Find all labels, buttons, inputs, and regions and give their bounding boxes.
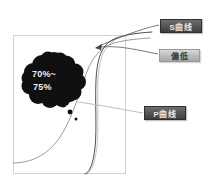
blob-percentage-range-line-2: 75%	[33, 82, 52, 92]
figure-canvas: 70%~ 75% S曲线 偏低 P曲线	[0, 0, 209, 188]
callout-s-curve[interactable]: S曲线	[160, 19, 202, 33]
blob-dot-large	[60, 101, 67, 108]
callout-p-curve[interactable]: P曲线	[144, 106, 186, 120]
blob-dot-small	[75, 118, 78, 121]
callout-low[interactable]: 偏低	[159, 49, 200, 62]
blob-percentage-range-line-1: 70%~	[32, 69, 56, 79]
blob-dot-medium	[68, 110, 73, 115]
